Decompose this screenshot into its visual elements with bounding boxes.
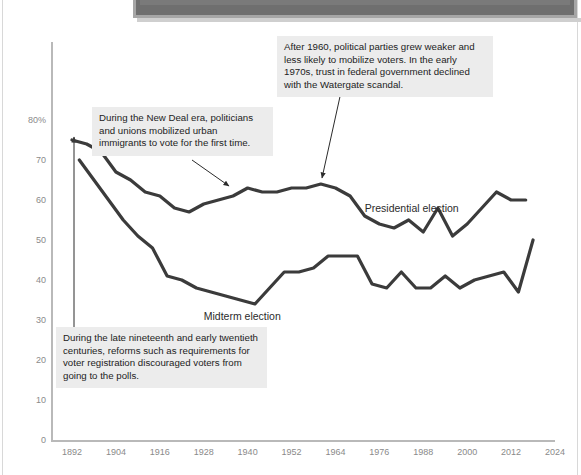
y-tick-label: 30 <box>12 315 46 325</box>
y-tick-50: 50 <box>8 235 46 245</box>
x-tick-1928: 1928 <box>182 447 226 457</box>
x-tick-1964: 1964 <box>313 447 357 457</box>
y-tick-label: 80% <box>12 115 46 125</box>
y-tick-60: 60 <box>8 195 46 205</box>
y-tick-10: 10 <box>8 395 46 405</box>
y-tick-label: 60 <box>12 195 46 205</box>
y-tick-70: 70 <box>8 155 46 165</box>
annotation-postwar-decline: After 1960, political parties grew weake… <box>277 36 493 97</box>
y-tick-label: 10 <box>12 395 46 405</box>
x-tick-1916: 1916 <box>138 447 182 457</box>
x-axis <box>51 440 555 442</box>
x-tick-2012: 2012 <box>489 447 533 457</box>
y-tick-label: 50 <box>12 235 46 245</box>
annotation-new-deal: During the New Deal era, politicians and… <box>92 107 273 156</box>
y-tick-label: 20 <box>12 355 46 365</box>
midterm-election-line <box>79 160 533 304</box>
y-tick-30: 30 <box>8 315 46 325</box>
y-axis <box>51 42 53 441</box>
y-tick-0: 0 <box>8 435 46 445</box>
x-tick-1976: 1976 <box>357 447 401 457</box>
x-tick-2000: 2000 <box>445 447 489 457</box>
y-tick-40: 40 <box>8 275 46 285</box>
y-tick-label: 40 <box>12 275 46 285</box>
x-tick-1904: 1904 <box>94 447 138 457</box>
y-tick-20: 20 <box>8 355 46 365</box>
annotation-registration-reforms: During the late nineteenth and early twe… <box>56 327 267 388</box>
y-tick-80%: 80% <box>8 115 46 125</box>
x-tick-1940: 1940 <box>226 447 270 457</box>
y-tick-label: 70 <box>12 155 46 165</box>
series-label-presidential: Presidential election <box>365 202 459 214</box>
x-tick-1952: 1952 <box>270 447 314 457</box>
series-label-midterm: Midterm election <box>204 310 281 322</box>
x-tick-1892: 1892 <box>50 447 94 457</box>
y-tick-label: 0 <box>12 435 46 445</box>
x-tick-2024: 2024 <box>533 447 577 457</box>
x-tick-1988: 1988 <box>401 447 445 457</box>
